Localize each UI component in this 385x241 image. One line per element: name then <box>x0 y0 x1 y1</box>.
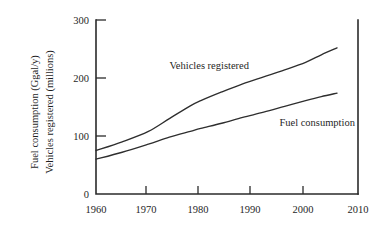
line-chart: 300 200 100 0 1960 1970 1980 1990 2000 2… <box>0 0 385 241</box>
y-axis-title-line1: Fuel consumption (Ggal/y) <box>29 55 41 169</box>
series-annotation-vehicles-registered: Vehicles registered <box>169 60 249 71</box>
x-tick-marks <box>146 186 303 194</box>
x-tick-label-2010: 2010 <box>348 204 369 215</box>
chart-figure: 300 200 100 0 1960 1970 1980 1990 2000 2… <box>0 0 385 241</box>
series-annotation-fuel-consumption: Fuel consumption <box>279 117 355 128</box>
y-tick-label-200: 200 <box>73 73 89 84</box>
y-tick-label-100: 100 <box>73 131 89 142</box>
y-tick-label-300: 300 <box>73 15 89 26</box>
x-tick-label-1970: 1970 <box>136 204 157 215</box>
x-tick-label-1960: 1960 <box>86 204 107 215</box>
x-tick-label-1990: 1990 <box>240 204 261 215</box>
x-tick-label-2000: 2000 <box>293 204 314 215</box>
y-tick-label-0: 0 <box>84 189 89 200</box>
y-axis-title-line2: Vehicles registered (millions) <box>44 50 56 174</box>
y-tick-marks <box>96 20 106 136</box>
axis-left-and-bottom <box>96 20 358 194</box>
x-tick-label-1980: 1980 <box>188 204 209 215</box>
